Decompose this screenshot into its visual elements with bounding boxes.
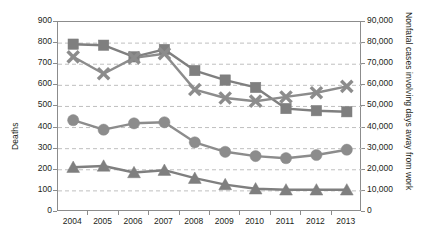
y-tick-left: 800 bbox=[20, 37, 52, 46]
y-tick-left: 600 bbox=[20, 79, 52, 88]
plot-area bbox=[57, 21, 361, 211]
y-tick-right: 80,000 bbox=[367, 37, 413, 46]
y-tick-left: 300 bbox=[20, 143, 52, 152]
y-tick-left: 900 bbox=[20, 16, 52, 25]
y-tick-right: 50,000 bbox=[367, 100, 413, 109]
y-tick-right: 40,000 bbox=[367, 122, 413, 131]
data-series-layer bbox=[58, 22, 362, 212]
y-tick-left: 100 bbox=[20, 185, 52, 194]
y-tick-right: 0 bbox=[367, 206, 413, 215]
y-tick-left: 700 bbox=[20, 58, 52, 67]
y-tick-left: 500 bbox=[20, 100, 52, 109]
y-tick-right: 10,000 bbox=[367, 185, 413, 194]
y-axis-left-title: Deaths bbox=[10, 122, 20, 150]
y-tick-right: 60,000 bbox=[367, 79, 413, 88]
y-tick-left: 400 bbox=[20, 122, 52, 131]
y-tick-left: 200 bbox=[20, 164, 52, 173]
y-tick-right: 90,000 bbox=[367, 16, 413, 25]
y-tick-right: 70,000 bbox=[367, 58, 413, 67]
y-tick-left: 0 bbox=[20, 206, 52, 215]
y-tick-right: 20,000 bbox=[367, 164, 413, 173]
y-tick-right: 30,000 bbox=[367, 143, 413, 152]
chart-container: Deaths Nonfatal cases involving days awa… bbox=[0, 0, 425, 248]
x-tick-label: 2013 bbox=[326, 217, 366, 226]
